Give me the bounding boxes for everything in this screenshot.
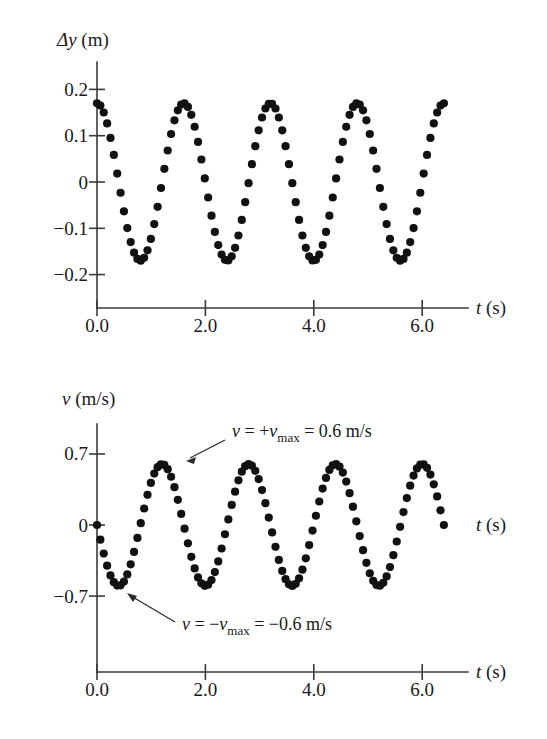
data-point	[436, 506, 444, 514]
data-point	[265, 513, 273, 521]
data-point	[298, 566, 306, 574]
data-point	[224, 515, 232, 523]
velocity-y-ticklabel: 0.7	[64, 443, 88, 464]
velocity-x-ticks: 0.02.04.06.0	[85, 664, 434, 700]
data-point	[116, 189, 124, 197]
velocity-x-ticklabel: 0.0	[85, 679, 109, 700]
data-point	[315, 497, 323, 505]
data-point	[389, 551, 397, 559]
data-point	[258, 113, 266, 121]
data-point	[234, 231, 242, 239]
data-point	[271, 104, 279, 112]
displacement-y-axis-title: Δy (m)	[56, 29, 109, 51]
data-point	[218, 544, 226, 552]
data-point	[359, 546, 367, 554]
data-point	[295, 216, 303, 224]
data-point	[123, 570, 131, 578]
data-point	[103, 562, 111, 570]
data-point	[359, 106, 367, 114]
data-point	[372, 165, 380, 173]
data-point	[413, 207, 421, 215]
data-point	[177, 510, 185, 518]
data-point	[281, 142, 289, 150]
displacement-data-points	[93, 99, 448, 265]
data-point	[160, 165, 168, 173]
data-point	[204, 193, 212, 201]
data-point	[376, 184, 384, 192]
data-point	[231, 244, 239, 252]
data-point	[386, 563, 394, 571]
data-point	[251, 142, 259, 150]
data-point	[221, 530, 229, 538]
data-point	[154, 203, 162, 211]
vmax-positive-arrow-line	[190, 440, 225, 458]
data-point	[319, 241, 327, 249]
data-point	[211, 568, 219, 576]
data-point	[100, 108, 108, 116]
data-point	[234, 476, 242, 484]
data-point	[342, 123, 350, 131]
data-point	[184, 539, 192, 547]
displacement-x-axis-title: t (s)	[476, 297, 506, 319]
data-point	[214, 557, 222, 565]
displacement-y-ticklabel: 0.2	[64, 79, 88, 100]
data-point	[133, 534, 141, 542]
data-point	[423, 151, 431, 159]
data-point	[248, 160, 256, 168]
data-point	[322, 474, 330, 482]
velocity-y-axis-title: v (m/s)	[62, 388, 115, 410]
data-point	[362, 559, 370, 567]
data-point	[339, 468, 347, 476]
velocity-data-points	[93, 460, 448, 590]
velocity-y-ticklabel: 0	[79, 515, 89, 536]
data-point	[238, 216, 246, 224]
velocity-x-ticklabel: 2.0	[194, 679, 218, 700]
data-point	[288, 179, 296, 187]
data-point	[103, 119, 111, 127]
data-point	[420, 170, 428, 178]
data-point	[345, 111, 353, 119]
data-point	[275, 556, 283, 564]
data-point	[409, 472, 417, 480]
data-point	[140, 504, 148, 512]
data-point	[308, 526, 316, 534]
data-point	[207, 212, 215, 220]
data-point	[329, 193, 337, 201]
data-point	[362, 116, 370, 124]
velocity-x-ticklabel: 4.0	[302, 679, 326, 700]
velocity-y-ticklabel: −0.7	[54, 586, 88, 607]
data-point	[110, 151, 118, 159]
data-point	[241, 198, 249, 206]
velocity-zero-level-time-label: t (s)	[476, 514, 506, 536]
data-point	[170, 483, 178, 491]
data-point	[349, 503, 357, 511]
data-point	[409, 224, 417, 232]
data-point	[197, 155, 205, 163]
data-point	[430, 480, 438, 488]
displacement-y-ticklabel: 0.1	[64, 125, 88, 146]
data-point	[164, 146, 172, 154]
data-point	[396, 523, 404, 531]
data-point	[187, 553, 195, 561]
data-point	[335, 155, 343, 163]
data-point	[403, 249, 411, 257]
data-point	[228, 252, 236, 260]
data-point	[123, 224, 131, 232]
annotation-vmax-negative: v = −vmax = −0.6 m/s	[127, 593, 332, 638]
data-point	[383, 220, 391, 228]
data-point	[305, 541, 313, 549]
vmax-negative-label: v = −vmax = −0.6 m/s	[182, 614, 332, 638]
data-point	[379, 203, 387, 211]
data-point	[147, 479, 155, 487]
displacement-y-ticklabel: −0.1	[54, 218, 88, 239]
displacement-x-ticklabel: 2.0	[194, 315, 218, 336]
data-point	[416, 189, 424, 197]
data-point	[184, 103, 192, 111]
data-point	[275, 113, 283, 121]
annotation-vmax-positive: v = +vmax = 0.6 m/s	[186, 421, 372, 464]
data-point	[258, 486, 266, 494]
data-point	[127, 238, 135, 246]
data-point	[164, 465, 172, 473]
data-point	[130, 548, 138, 556]
data-point	[325, 212, 333, 220]
